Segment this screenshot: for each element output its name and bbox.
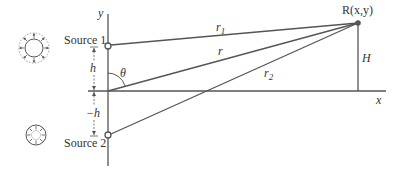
theta-label: θ xyxy=(120,66,126,80)
r-line xyxy=(108,23,358,91)
y-axis-label: y xyxy=(97,6,104,20)
H-label: H xyxy=(361,51,372,65)
receiver-label: R(x,y) xyxy=(342,3,373,17)
source-2-label: Source 2 xyxy=(64,136,106,150)
contracting-wave-icon xyxy=(26,125,46,145)
r1-label: r1 xyxy=(216,20,225,36)
x-axis-label: x xyxy=(375,93,382,107)
r2-line xyxy=(111,23,358,134)
source-1-label: Source 1 xyxy=(64,33,106,47)
two-source-diagram: y x r1 r r2 H θ Source 1 Source 2 R(x,y) xyxy=(0,0,402,178)
r2-label: r2 xyxy=(264,66,274,82)
ray-lines xyxy=(108,23,358,134)
svg-text:h: h xyxy=(90,61,96,75)
h-dimension: h xyxy=(90,47,98,90)
receiver-point xyxy=(355,20,361,26)
r-label: r xyxy=(218,44,223,58)
minus-h-dimension: −h xyxy=(86,92,100,136)
svg-text:−h: −h xyxy=(86,106,100,120)
r1-line xyxy=(111,23,358,45)
expanding-wave-icon xyxy=(19,33,49,63)
